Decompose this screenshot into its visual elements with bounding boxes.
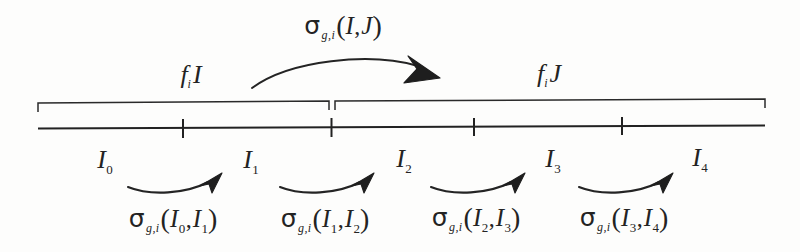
sigma-glyph: σ: [432, 203, 448, 232]
group-transfer-arrow: [252, 56, 440, 88]
node-index: 1: [252, 162, 259, 177]
close-paren: ): [372, 10, 381, 41]
node-index: 3: [554, 161, 561, 176]
sigma-subscript: g,i: [146, 221, 160, 235]
close-paren: ): [659, 202, 668, 233]
arg-from-index: 2: [482, 220, 489, 235]
close-paren: ): [208, 203, 217, 234]
arg-to-letter: I: [496, 204, 504, 231]
node-label-I0: I0: [97, 147, 113, 176]
open-paren: (: [161, 203, 170, 234]
transfer-cross-section-label: σg,i(I,J): [304, 12, 382, 41]
group-label-J: fiJ: [537, 61, 561, 89]
open-paren: (: [464, 202, 473, 233]
group-bracket-I: [38, 101, 329, 112]
arg-from-letter: I: [621, 204, 629, 231]
node-label-I3: I3: [545, 146, 561, 175]
node-letter: I: [692, 143, 701, 172]
arg-comma: ,: [338, 206, 344, 232]
close-paren: ): [511, 202, 520, 233]
close-paren: ): [360, 203, 369, 234]
node-index: 2: [405, 161, 412, 176]
arg-comma: ,: [354, 13, 360, 39]
group-letter: J: [550, 59, 562, 88]
open-paren: (: [313, 203, 322, 234]
node-index: 4: [701, 160, 708, 175]
arg-from-index: 3: [630, 220, 637, 235]
transition-arrow: [280, 173, 374, 193]
arg-comma: ,: [637, 205, 643, 231]
f-subscript: i: [188, 77, 191, 91]
arg-to-letter: I: [644, 204, 652, 231]
arg-from-index: 0: [179, 221, 186, 236]
sigma-glyph: σ: [304, 11, 320, 40]
node-label-I4: I4: [692, 145, 708, 174]
sigma-subscript: g,i: [449, 220, 463, 234]
sigma-subscript: g,i: [597, 220, 611, 234]
arg-comma: ,: [186, 206, 192, 232]
arg-to-letter: I: [345, 205, 353, 232]
transfer-arg-from: I: [345, 12, 353, 39]
sigma-subscript: g,i: [322, 28, 336, 42]
open-paren: (: [612, 202, 621, 233]
node-letter: I: [97, 145, 106, 174]
sigma-subscript: g,i: [298, 221, 312, 235]
transition-label-1: σg,i(I1,I2): [281, 205, 370, 235]
node-letter: I: [396, 144, 405, 173]
transfer-arg-to: J: [361, 12, 372, 39]
transition-arrow: [431, 173, 525, 193]
transition-arrow: [579, 173, 673, 193]
node-label-I1: I1: [243, 147, 259, 176]
node-index: 0: [106, 162, 113, 177]
group-label-I: fiI: [180, 62, 201, 90]
arg-to-letter: I: [193, 205, 201, 232]
group-bracket-J: [335, 99, 765, 110]
sigma-glyph: σ: [580, 203, 596, 232]
transition-arrow: [128, 173, 222, 193]
node-letter: I: [545, 144, 554, 173]
group-letter: I: [193, 60, 202, 89]
figure-linework: [0, 0, 800, 252]
arg-comma: ,: [489, 205, 495, 231]
open-paren: (: [336, 10, 345, 41]
arg-from-index: 1: [331, 221, 338, 236]
node-letter: I: [243, 145, 252, 174]
arg-from-letter: I: [473, 204, 481, 231]
arg-from-letter: I: [170, 205, 178, 232]
transition-label-0: σg,i(I0,I1): [129, 205, 218, 235]
f-subscript: i: [544, 76, 547, 90]
transition-label-3: σg,i(I3,I4): [580, 204, 669, 234]
figure-root: σg,i(I,J) fiI fiJ I0 I1 I2 I3 I4 σg,i(I0…: [0, 0, 800, 252]
sigma-glyph: σ: [129, 204, 145, 233]
axis-line: [38, 126, 765, 129]
sigma-glyph: σ: [281, 204, 297, 233]
transition-label-2: σg,i(I2,I3): [432, 204, 521, 234]
arg-from-letter: I: [322, 205, 330, 232]
node-label-I2: I2: [396, 146, 412, 175]
